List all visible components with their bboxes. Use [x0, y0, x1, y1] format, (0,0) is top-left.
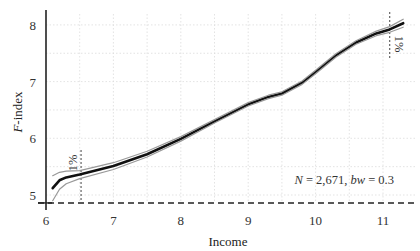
y-tick-labels: 5678	[30, 18, 37, 203]
x-tick-label: 10	[309, 213, 322, 228]
annotation-bw-value: = 0.3	[365, 173, 394, 187]
series-ci-upper-line	[53, 19, 404, 176]
annotation-n-value: = 2,671,	[303, 173, 351, 187]
y-tick-label: 5	[30, 188, 37, 203]
y-tick-label: 8	[30, 18, 37, 33]
y-axis-label-rest: -index	[10, 91, 25, 125]
chart: 1%1% 67891011 5678 Income F-index N = 2,…	[0, 0, 420, 251]
x-tick-label: 7	[110, 213, 117, 228]
annotation-bw-label: bw	[350, 173, 365, 187]
x-tick-label: 6	[43, 213, 50, 228]
percentile-label-low: 1%	[66, 155, 80, 172]
x-tick-label: 8	[178, 213, 185, 228]
x-tick-labels: 67891011	[43, 213, 390, 228]
sample-annotation: N = 2,671, bw = 0.3	[293, 173, 394, 187]
y-axis-label: F-index	[10, 91, 25, 134]
y-tick-label: 7	[30, 75, 37, 90]
x-tick-label: 11	[377, 213, 390, 228]
x-axis-label: Income	[209, 234, 248, 249]
y-tick-label: 6	[30, 131, 37, 146]
x-tick-label: 9	[245, 213, 252, 228]
percentile-label-high: 1%	[392, 36, 406, 53]
percentile-markers: 1%1%	[66, 12, 406, 200]
